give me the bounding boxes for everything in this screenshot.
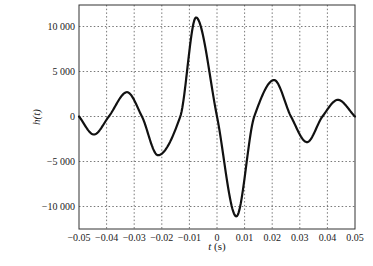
y-tick-label: −10 000 [42,201,75,212]
line-chart: −0.05−0.04−0.03−0.02−0.0100.010.020.030.… [0,0,373,266]
x-tick-label: −0.01 [178,232,201,243]
x-axis-label: t (s) [208,240,226,253]
y-tick-label: 0 [70,111,75,122]
x-tick-label: 0.05 [346,232,364,243]
y-axis-label: h(t) [30,109,43,125]
y-tick-label: 10 000 [48,21,76,32]
x-tick-label: 0.04 [319,232,337,243]
y-axis-ticks: 10 0005 0000−5 000−10 000 [42,21,75,212]
x-tick-label: −0.04 [95,232,118,243]
x-tick-label: −0.05 [67,232,90,243]
x-tick-label: 0.03 [291,232,309,243]
x-tick-label: 0.01 [236,232,254,243]
x-tick-label: −0.02 [150,232,173,243]
y-tick-label: 5 000 [53,66,76,77]
x-tick-label: 0.02 [263,232,281,243]
y-tick-label: −5 000 [47,156,75,167]
x-tick-label: −0.03 [123,232,146,243]
